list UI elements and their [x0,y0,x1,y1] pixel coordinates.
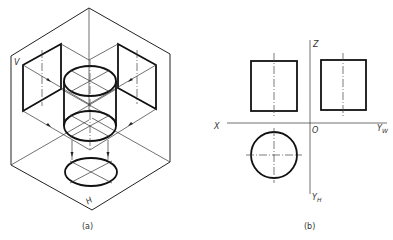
z-label: Z [312,40,319,49]
arrow-icon [46,78,51,82]
ray [89,65,156,104]
figure-a-isometric: V H (a) [11,8,170,231]
technical-drawing: V H (a) Z X O YW YH (b) [0,0,393,240]
side-view-rect [321,60,366,110]
arrow-icon [107,152,110,157]
arrow-icon [128,122,133,126]
hexagon-outline [11,8,170,210]
caption-a: (a) [82,222,93,231]
x-label: X [213,122,220,131]
ray [89,44,118,60]
figure-b-orthographic: Z X O YW YH (b) [213,40,389,231]
arrow-icon [46,123,51,127]
origin-label: O [312,126,318,135]
ray [61,44,89,60]
h-plane-label: H [84,196,94,207]
arrow-icon [71,152,74,157]
ray [90,109,156,150]
ray [23,111,90,150]
yw-label: YW [377,124,389,134]
yh-label: YH [312,193,322,203]
ray [23,65,89,104]
caption-b: (b) [304,222,315,231]
v-plane-label: V [14,58,20,67]
